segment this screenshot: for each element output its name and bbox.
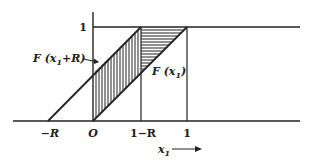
x-axis-label: x1 xyxy=(157,143,202,158)
diagram-canvas: 1 F (x1+R) F (x1) −R O 1−R 1 x1 xyxy=(0,0,309,165)
x-tick-label-minus-r: −R xyxy=(41,127,59,140)
label-f-x1: F (x1) xyxy=(151,65,186,80)
x-tick-label-1: 1 xyxy=(183,127,191,140)
label-f-x1-plus-r: F (x1+R) xyxy=(32,52,99,67)
svg-text:x1: x1 xyxy=(157,143,170,158)
x-tick-label-1-minus-r: 1−R xyxy=(130,127,157,140)
curve-f-x1-plus-r xyxy=(48,27,141,121)
arrow-head-icon xyxy=(94,59,99,65)
x-axis-direction-arrow-icon xyxy=(195,146,202,152)
x-tick-label-origin: O xyxy=(88,127,98,140)
y-tick-label-1: 1 xyxy=(79,21,87,34)
svg-text:F (x1+R): F (x1+R) xyxy=(32,52,86,67)
diagram: 1 F (x1+R) F (x1) −R O 1−R 1 x1 xyxy=(0,0,309,165)
